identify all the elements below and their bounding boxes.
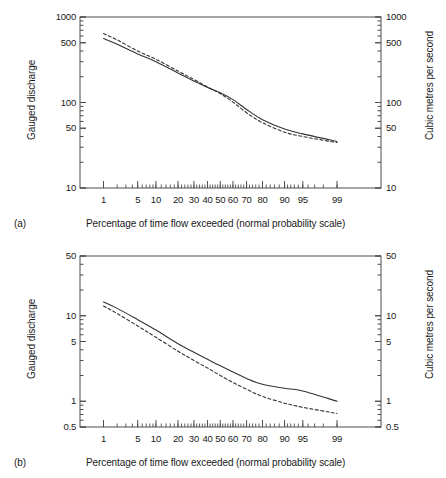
chart-a-y-tick-label-left: 50 [66,122,76,133]
chart-b-y-tick-label-right: 0.5 [386,421,399,432]
chart-b-y-axis-title-left: Gauged discharge [26,299,37,379]
chart-b-y-axis-title-right: Cubic metres per second [424,270,435,379]
chart-b-y-tick-label-left: 10 [66,310,76,321]
chart-a-solid-curve [104,39,338,142]
chart-a-x-axis-title: Percentage of time flow exceeded (normal… [86,218,345,229]
chart-b-x-tick-label: 1 [92,433,116,444]
chart-b-y-tick-label-left: 5 [71,336,76,347]
chart-a-axes-frame [80,17,381,188]
chart-a-x-tick-label: 1 [92,194,116,205]
chart-a-y-tick-label-right: 10 [386,182,396,193]
chart-a-y-axis-title-right: Cubic metres per second [424,31,435,140]
chart-b-x-tick-label: 99 [325,433,349,444]
chart-a-y-tick-label-right: 100 [386,97,401,108]
chart-b-y-tick-label-right: 10 [386,310,396,321]
panel-letter-a: (a) [14,218,26,229]
chart-b-y-tick-label-right: 50 [386,250,396,261]
chart-a-y-tick-label-left: 100 [61,97,76,108]
chart-a-y-tick-label-right: 500 [386,37,401,48]
chart-b-y-tick-label-left: 0.5 [63,421,76,432]
chart-b-y-tick-label-right: 5 [386,336,391,347]
chart-b-x-tick-label: 95 [291,433,315,444]
chart-panel-b: Gauged discharge Cubic metres per second… [0,239,446,478]
chart-b-x-tick-label: 10 [144,433,168,444]
chart-b-solid-curve [104,302,338,401]
chart-a-x-tick-label: 95 [291,194,315,205]
chart-b-y-tick-label-left: 1 [71,395,76,406]
chart-b-dashed-curve [104,306,338,413]
chart-a-y-tick-label-left: 500 [61,37,76,48]
chart-a-dashed-curve [104,34,338,143]
chart-a-y-tick-label-left: 10 [66,182,76,193]
chart-b-y-tick-label-left: 50 [66,250,76,261]
chart-panel-a: Gauged discharge Cubic metres per second… [0,0,446,239]
chart-a-x-tick-label: 10 [144,194,168,205]
chart-a-y-axis-title-left: Gauged discharge [26,60,37,140]
chart-a-y-tick-label-right: 1000 [386,11,406,22]
chart-a-x-tick-label: 99 [325,194,349,205]
chart-a-y-tick-label-left: 1000 [56,11,76,22]
panel-letter-b: (b) [14,457,26,468]
flow-duration-figure: Gauged discharge Cubic metres per second… [0,0,446,478]
chart-b-x-axis-title: Percentage of time flow exceeded (normal… [86,457,345,468]
chart-a-x-tick-label: 80 [250,194,274,205]
chart-a-y-tick-label-right: 50 [386,122,396,133]
chart-b-x-tick-label: 80 [250,433,274,444]
chart-b-y-tick-label-right: 1 [386,395,391,406]
